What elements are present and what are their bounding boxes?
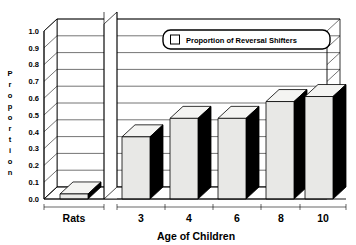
bar-front-face xyxy=(305,97,333,199)
y-tick-label: 0.7 xyxy=(29,77,39,86)
y-axis-title-letter: o xyxy=(8,157,13,166)
y-tick-label: 0.5 xyxy=(29,111,39,120)
bar-chart-figure: 1.0 0.9 0.8 0.7 0.6 0.5 0.4 0.3 0.2 0.1 … xyxy=(0,0,356,245)
y-tick-label: 0.9 xyxy=(29,44,39,53)
y-tick-label: 0.6 xyxy=(29,94,39,103)
y-tick-label: 0.3 xyxy=(29,144,39,153)
y-axis-title-letter: r xyxy=(9,124,12,133)
x-tick-label: Rats xyxy=(63,212,86,224)
bar-front-face xyxy=(60,194,88,199)
x-axis-title: Age of Children xyxy=(157,230,235,242)
bar-3[interactable] xyxy=(122,125,163,199)
chart-svg: 1.0 0.9 0.8 0.7 0.6 0.5 0.4 0.3 0.2 0.1 … xyxy=(0,0,356,245)
y-axis-title-letter: p xyxy=(8,102,13,111)
bar-side-face xyxy=(246,106,259,199)
y-tick-label: 0.4 xyxy=(29,128,40,137)
y-tick-label: 1.0 xyxy=(29,27,39,36)
x-tick-label: 6 xyxy=(234,212,240,224)
bar-side-face xyxy=(198,106,211,199)
legend-swatch-icon xyxy=(171,35,180,44)
bar-front-face xyxy=(122,137,150,199)
bar-side-face xyxy=(150,125,163,199)
bar-6[interactable] xyxy=(218,106,259,199)
y-axis-title-letter: P xyxy=(7,69,12,78)
y-tick-label: 0.2 xyxy=(29,161,39,170)
y-tick-label: 0.0 xyxy=(29,195,39,204)
bar-front-face xyxy=(170,118,198,199)
y-tick-label: 0.1 xyxy=(29,178,39,187)
axis-break-band xyxy=(104,12,117,199)
y-axis-title-letter: o xyxy=(8,91,13,100)
bar-8[interactable] xyxy=(266,90,307,199)
x-tick-label: 8 xyxy=(278,212,284,224)
bar-10[interactable] xyxy=(305,85,346,199)
y-tick-label: 0.8 xyxy=(29,60,39,69)
y-axis-title-letter: i xyxy=(9,146,11,155)
y-axis-title-letter: o xyxy=(8,113,13,122)
bar-front-face xyxy=(266,102,294,199)
legend-label: Proportion of Reversal Shifters xyxy=(186,36,297,45)
bar-side-face xyxy=(333,85,346,199)
y-axis-title-letter: n xyxy=(8,168,13,177)
bar-4[interactable] xyxy=(170,106,211,199)
x-tick-label: 4 xyxy=(186,212,192,224)
bar-front-face xyxy=(218,118,246,199)
y-axis-title-letter: r xyxy=(9,80,12,89)
x-tick-label: 3 xyxy=(138,212,144,224)
legend[interactable]: Proportion of Reversal Shifters xyxy=(163,30,330,49)
x-tick-label: 10 xyxy=(317,212,329,224)
